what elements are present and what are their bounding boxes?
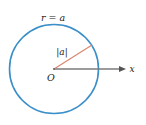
axis-arrowhead-icon: [119, 66, 126, 72]
polar-circle-diagram: r = a |a| O x: [0, 0, 146, 125]
radius-label: |a|: [56, 47, 67, 58]
x-axis-label: x: [129, 64, 134, 74]
origin-point: [53, 68, 55, 70]
origin-label: O: [47, 72, 55, 83]
curve-equation-label: r = a: [41, 12, 66, 23]
